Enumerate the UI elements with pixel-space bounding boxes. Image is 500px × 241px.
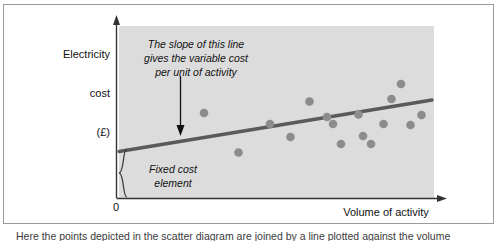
data-point xyxy=(354,110,363,119)
data-point xyxy=(359,132,368,141)
data-point xyxy=(379,120,388,129)
data-point xyxy=(286,133,295,142)
data-point xyxy=(266,120,275,129)
data-point xyxy=(329,120,338,129)
data-point xyxy=(406,121,415,130)
slope-annotation: The slope of this line gives the variabl… xyxy=(126,38,266,80)
origin-label: 0 xyxy=(113,201,119,214)
data-point xyxy=(397,80,406,89)
y-axis xyxy=(113,15,120,198)
data-point xyxy=(234,148,243,157)
data-point xyxy=(337,140,346,149)
data-point xyxy=(387,95,396,104)
y-axis-label: Electricity cost (£) xyxy=(32,22,110,165)
figure-container: Electricity cost (£) The slope of this l… xyxy=(0,0,500,241)
data-point xyxy=(417,111,426,120)
data-point xyxy=(323,113,332,122)
y-axis-label-line-2: cost xyxy=(32,87,110,100)
data-point xyxy=(305,97,314,106)
y-axis-label-line-1: Electricity xyxy=(32,48,110,61)
x-axis-label: Volume of activity xyxy=(316,206,456,219)
y-axis-label-line-3: (£) xyxy=(32,126,110,139)
data-point xyxy=(367,140,376,149)
data-point xyxy=(200,109,209,118)
caption-text: Here the points depicted in the scatter … xyxy=(16,231,484,241)
fixed-cost-annotation: Fixed cost element xyxy=(133,163,213,191)
